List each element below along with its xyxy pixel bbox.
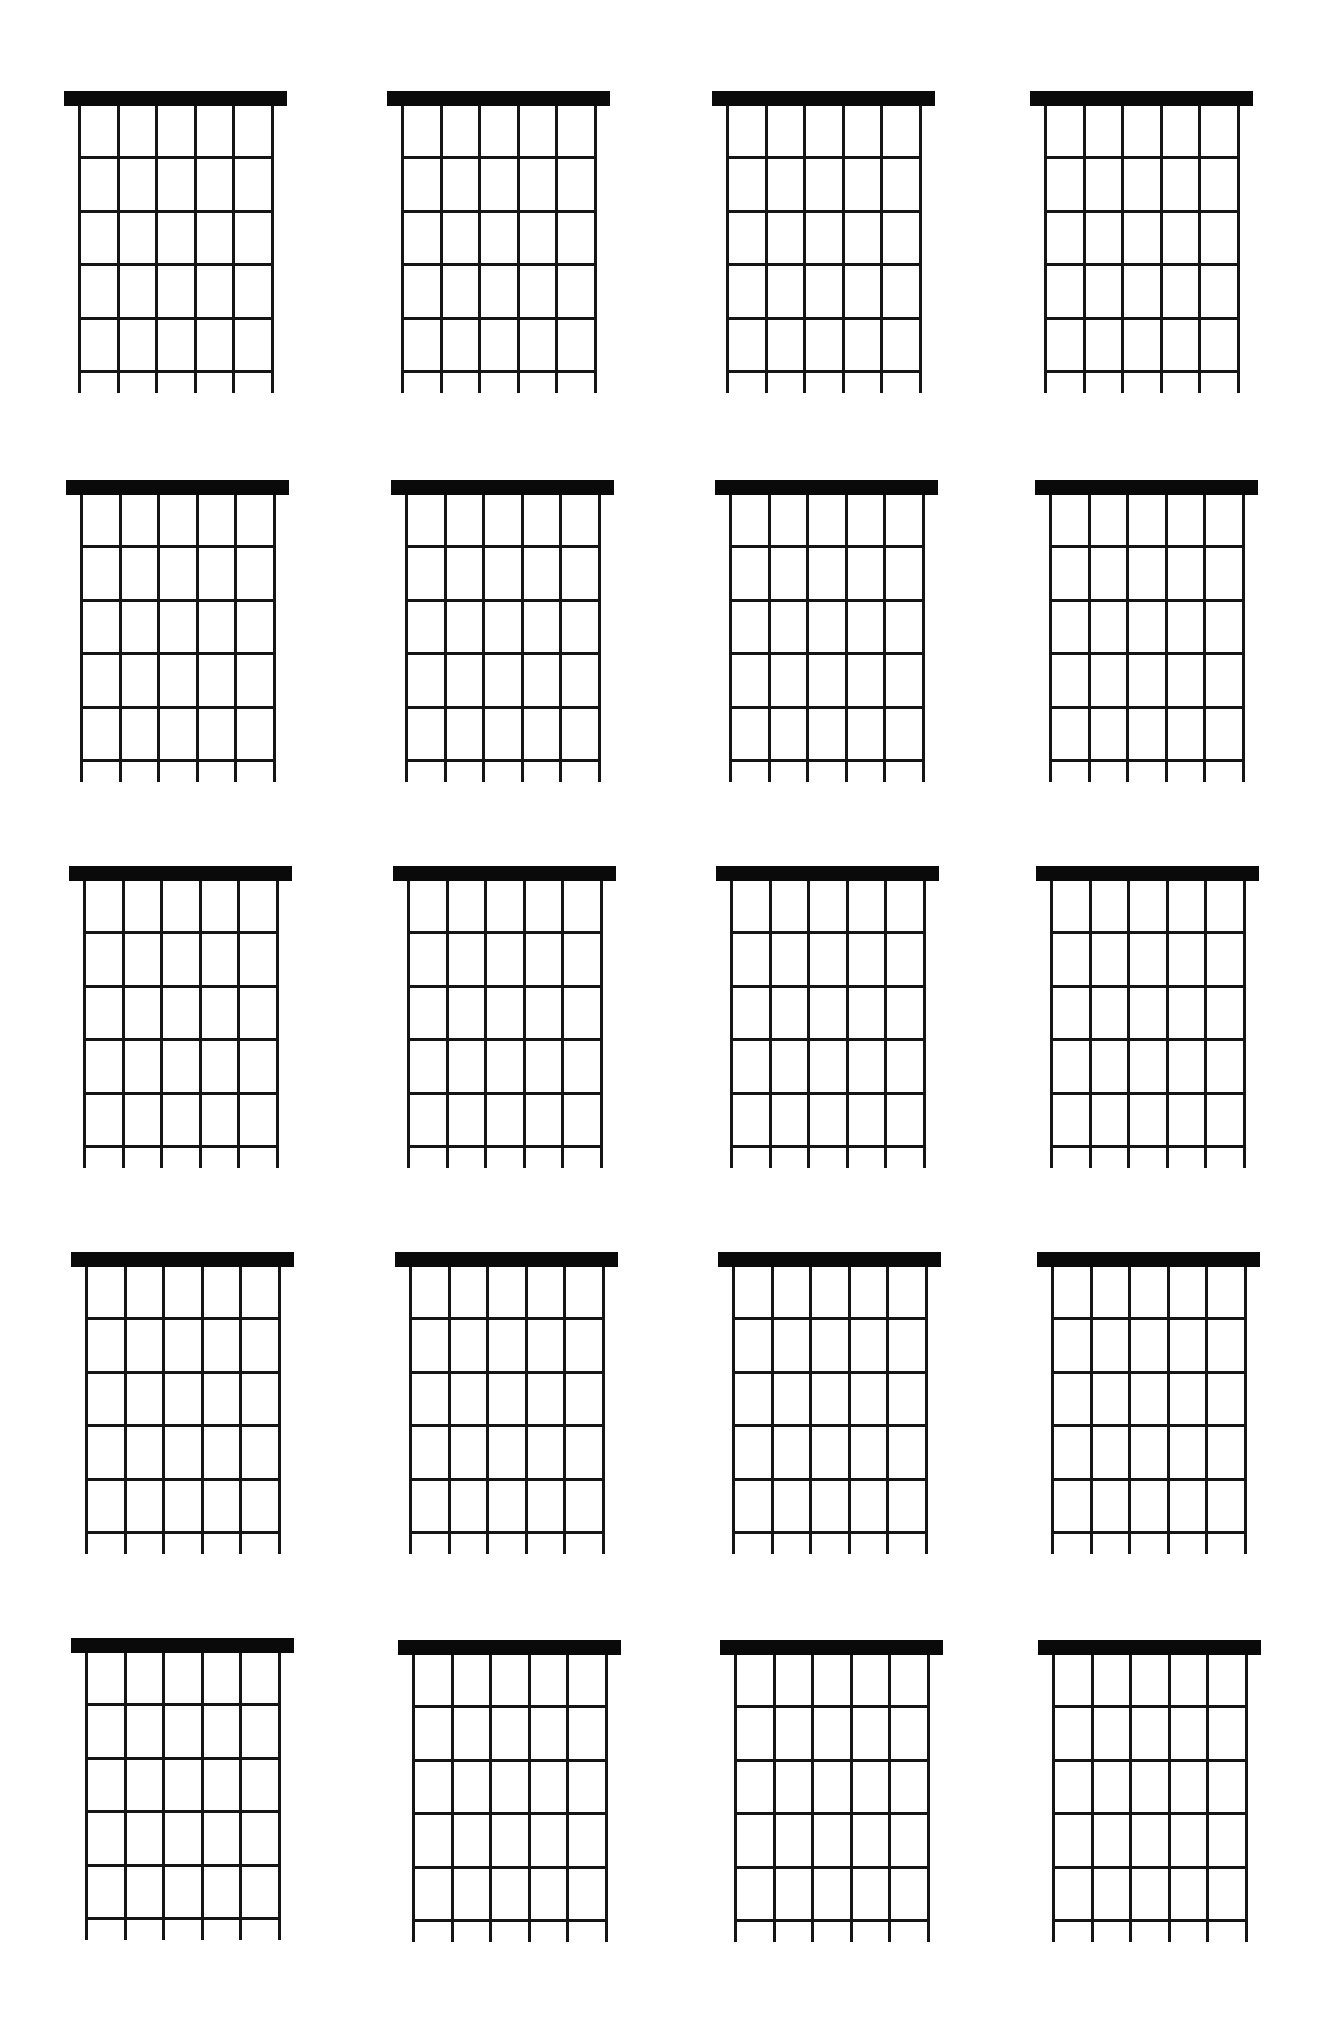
fret-line [402, 263, 597, 266]
fret-line [402, 156, 597, 159]
nut-bar [1036, 866, 1259, 881]
fret-line [86, 1371, 281, 1374]
string-line [124, 1267, 127, 1554]
nut-bar [718, 1252, 941, 1267]
fret-line [406, 759, 601, 762]
string-line [886, 1267, 889, 1554]
fret-line [81, 759, 276, 762]
fret-line [402, 210, 597, 213]
fret-line [733, 1371, 928, 1374]
fret-line [413, 1812, 608, 1815]
fret-line [733, 1317, 928, 1320]
string-line [85, 1267, 88, 1554]
string-line [239, 1653, 242, 1940]
string-line [919, 106, 922, 393]
fret-line [408, 985, 603, 988]
string-line [765, 106, 768, 393]
fret-line [1051, 931, 1246, 934]
string-line [162, 1267, 165, 1554]
fret-line [81, 706, 276, 709]
string-line [162, 1653, 165, 1940]
string-line [276, 881, 279, 1168]
nut-bar [1038, 1640, 1261, 1655]
string-line [278, 1267, 281, 1554]
chord-diagram [71, 1252, 294, 1554]
string-line [1051, 1267, 1054, 1554]
string-line [409, 1267, 412, 1554]
fret-line [86, 1703, 281, 1706]
string-line [407, 881, 410, 1168]
fret-line [84, 985, 279, 988]
chord-diagram [69, 866, 292, 1168]
fret-line [1050, 652, 1245, 655]
string-line [730, 881, 733, 1168]
nut-bar [393, 866, 616, 881]
string-line [605, 1655, 608, 1942]
chord-diagram [720, 1640, 943, 1942]
chord-diagram [1035, 480, 1258, 782]
string-line [157, 495, 160, 782]
fret-line [1045, 156, 1240, 159]
string-line [845, 495, 848, 782]
fret-line [81, 545, 276, 548]
fret-line [410, 1424, 605, 1427]
nut-bar [1030, 91, 1253, 106]
chord-diagram [716, 866, 939, 1168]
fret-line [86, 1531, 281, 1534]
fret-line [402, 370, 597, 373]
fret-line [406, 706, 601, 709]
string-line [773, 1655, 776, 1942]
fret-line [86, 1917, 281, 1920]
string-line [273, 495, 276, 782]
string-line [446, 881, 449, 1168]
fret-line [1051, 1145, 1246, 1148]
fret-line [731, 1092, 926, 1095]
chord-diagram [391, 480, 614, 782]
nut-bar [720, 1640, 943, 1655]
string-line [566, 1655, 569, 1942]
chord-diagram [71, 1638, 294, 1940]
fret-line [408, 1145, 603, 1148]
fret-line [1050, 706, 1245, 709]
string-line [122, 881, 125, 1168]
fret-line [406, 545, 601, 548]
fret-line [86, 1478, 281, 1481]
fret-line [84, 931, 279, 934]
string-line [598, 495, 601, 782]
fret-line [733, 1531, 928, 1534]
string-line [1244, 1267, 1247, 1554]
fret-line [735, 1705, 930, 1708]
string-line [734, 1655, 737, 1942]
string-line [1167, 1267, 1170, 1554]
string-line [199, 881, 202, 1168]
string-line [451, 1655, 454, 1942]
string-line [155, 106, 158, 393]
string-line [517, 106, 520, 393]
string-line [726, 106, 729, 393]
string-line [883, 495, 886, 782]
chord-diagram [66, 480, 289, 782]
fret-line [1045, 210, 1240, 213]
string-line [807, 881, 810, 1168]
string-line [927, 1655, 930, 1942]
nut-bar [1035, 480, 1258, 495]
string-line [478, 106, 481, 393]
string-line [768, 495, 771, 782]
fret-line [735, 1866, 930, 1869]
fret-line [408, 1038, 603, 1041]
string-line [78, 106, 81, 393]
string-line [594, 106, 597, 393]
fret-line [86, 1757, 281, 1760]
string-line [1049, 495, 1052, 782]
string-line [1083, 106, 1086, 393]
string-line [124, 1653, 127, 1940]
string-line [80, 495, 83, 782]
string-line [1050, 881, 1053, 1168]
string-line [1129, 1655, 1132, 1942]
string-line [239, 1267, 242, 1554]
string-line [1168, 1655, 1171, 1942]
nut-bar [1037, 1252, 1260, 1267]
fret-line [727, 263, 922, 266]
string-line [489, 1655, 492, 1942]
string-line [201, 1653, 204, 1940]
